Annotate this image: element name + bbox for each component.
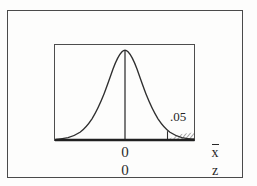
z-axis-zero-tick: 0 <box>113 163 137 178</box>
xbar-glyph: x <box>212 146 219 160</box>
tail-area-label: .05 <box>170 110 186 123</box>
statistics-figure: .05 0 0 x z <box>0 0 257 186</box>
z-axis-name: z <box>204 164 226 178</box>
xbar-letter: x <box>212 145 219 160</box>
overbar-icon <box>212 144 219 145</box>
xbar-axis-name: x <box>204 146 226 160</box>
xbar-axis-zero-tick: 0 <box>113 145 137 160</box>
plot-area-border <box>54 44 195 141</box>
